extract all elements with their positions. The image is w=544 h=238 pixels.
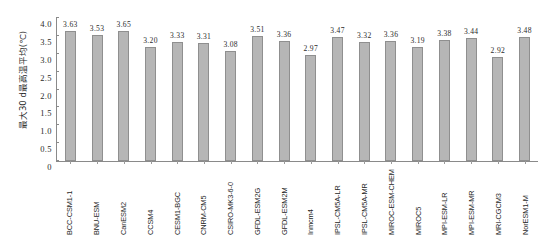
x-label-slot: MPI-ESM-MR	[459, 163, 486, 237]
x-label-slot: MIROC-ESM-CHEM	[378, 163, 405, 237]
x-label-slot: CESM1-BGC	[164, 163, 191, 237]
x-tick-label: IPSL-CM5A-MR	[361, 163, 369, 235]
bar-slot: 3.44	[458, 18, 485, 161]
bar-slot: 3.31	[191, 18, 218, 161]
x-label-slot: CSIRO-MK3-6-0	[218, 163, 245, 237]
x-tick-label: BCC-CSM1-1	[66, 163, 74, 235]
bar-value-label: 2.97	[304, 44, 319, 53]
x-tick-label: MIROC5	[415, 163, 423, 235]
bar-value-label: 3.33	[170, 31, 185, 40]
y-tick-label: 0	[47, 162, 56, 172]
x-axis-labels: BCC-CSM1-1BNU-ESMCanESM2CCSM4CESM1-BGCCN…	[57, 163, 539, 237]
bar-value-label: 3.47	[330, 26, 345, 35]
bar-value-label: 3.48	[517, 26, 532, 35]
bar-slot: 2.97	[297, 18, 324, 161]
x-tick-label: GFDL-ESM2G	[254, 163, 262, 235]
bar-slot: 3.63	[57, 18, 84, 161]
x-axis-line	[56, 161, 538, 162]
bar	[92, 35, 103, 161]
bar-slot: 2.92	[485, 18, 512, 161]
x-tick-label: GFDL-ESM2M	[281, 163, 289, 235]
bar	[65, 31, 76, 161]
plot-area: 00.51.01.52.02.53.03.54.0 3.633.533.653.…	[56, 18, 538, 161]
bar-value-label: 3.63	[63, 20, 78, 29]
y-tick: 3.5	[22, 31, 56, 41]
bar-value-label: 3.65	[117, 20, 132, 29]
x-label-slot: MPI-ESM-LR	[432, 163, 459, 237]
x-tick-label: MIROC-ESM-CHEM	[388, 163, 396, 235]
y-tick: 0	[22, 156, 56, 166]
x-tick-label: CCSM4	[147, 163, 155, 235]
bar	[385, 41, 396, 161]
bar-value-label: 3.19	[410, 36, 425, 45]
y-tick-label: 2.5	[40, 73, 56, 83]
bar-value-label: 3.36	[277, 30, 292, 39]
x-label-slot: IPSL-CM5A-MR	[352, 163, 379, 237]
y-tick-label: 2.0	[40, 91, 56, 101]
bar	[118, 31, 129, 161]
x-tick-label: Inmcm4	[307, 163, 315, 235]
bar	[305, 55, 316, 161]
bar-slot: 3.65	[110, 18, 137, 161]
bar	[225, 51, 236, 161]
bar-slot: 3.51	[244, 18, 271, 161]
bar-series: 3.633.533.653.203.333.313.083.513.362.97…	[57, 18, 538, 161]
x-tick-label: MRI-CGCM3	[495, 163, 503, 235]
x-label-slot: GFDL-ESM2G	[244, 163, 271, 237]
bar	[519, 37, 530, 161]
bar	[332, 37, 343, 161]
x-tick-label: CESM1-BGC	[174, 163, 182, 235]
x-tick-label: BNU-ESM	[93, 163, 101, 235]
bar-value-label: 3.38	[437, 29, 452, 38]
x-label-slot: BNU-ESM	[84, 163, 111, 237]
bar-value-label: 3.53	[90, 24, 105, 33]
y-tick-label: 1.5	[40, 108, 56, 118]
bar	[439, 40, 450, 161]
bar-chart: 最大30 d最高温平均(℃) 00.51.01.52.02.53.03.54.0…	[0, 0, 544, 238]
y-tick-label: 1.0	[40, 126, 56, 136]
bar	[145, 47, 156, 161]
bar-slot: 3.20	[137, 18, 164, 161]
y-tick: 1.0	[22, 120, 56, 130]
y-tick-label: 3.0	[40, 55, 56, 65]
bar-slot: 3.32	[351, 18, 378, 161]
bar-slot: 3.36	[378, 18, 405, 161]
bar-slot: 3.33	[164, 18, 191, 161]
y-tick: 3.0	[22, 49, 56, 59]
y-axis-title: 最大30 d最高温平均(℃)	[16, 0, 30, 160]
bar	[412, 47, 423, 161]
x-label-slot: BCC-CSM1-1	[57, 163, 84, 237]
x-label-slot: MRI-CGCM3	[486, 163, 513, 237]
y-tick-label: 0.5	[40, 144, 56, 154]
bar-slot: 3.47	[324, 18, 351, 161]
x-tick-label: MPI-ESM-LR	[441, 163, 449, 235]
bar-value-label: 3.44	[464, 27, 479, 36]
bar-value-label: 3.08	[223, 40, 238, 49]
y-tick: 2.5	[22, 67, 56, 77]
bar-value-label: 3.32	[357, 31, 372, 40]
bar	[466, 38, 477, 161]
x-tick-label: MPI-ESM-MR	[468, 163, 476, 235]
x-label-slot: IPSL-CM5A-LR	[325, 163, 352, 237]
bar-value-label: 3.51	[250, 25, 265, 34]
y-tick: 2.0	[22, 85, 56, 95]
y-tick: 4.0	[22, 13, 56, 23]
bar-slot: 3.48	[511, 18, 538, 161]
bar-slot: 3.36	[271, 18, 298, 161]
bar-value-label: 3.20	[143, 36, 158, 45]
y-tick: 0.5	[22, 138, 56, 148]
bar	[252, 36, 263, 161]
y-tick-label: 3.5	[40, 37, 56, 47]
bar-slot: 3.38	[431, 18, 458, 161]
bar	[198, 43, 209, 161]
x-label-slot: Inmcm4	[298, 163, 325, 237]
bar-slot: 3.19	[404, 18, 431, 161]
bar	[359, 42, 370, 161]
bar	[492, 57, 503, 161]
y-tick-label: 4.0	[40, 19, 56, 29]
x-tick-label: CSIRO-MK3-6-0	[227, 163, 235, 235]
x-label-slot: GFDL-ESM2M	[271, 163, 298, 237]
bar	[172, 42, 183, 161]
bar-slot: 3.53	[84, 18, 111, 161]
x-label-slot: MIROC5	[405, 163, 432, 237]
